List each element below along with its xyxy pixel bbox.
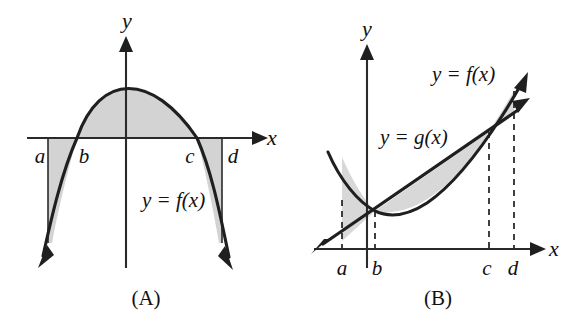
function-label-f: y = f(x) <box>140 188 205 212</box>
y-axis-label: y <box>120 8 132 33</box>
panel-b: x y a b c d y = f(x) y = g(x) (B) <box>292 0 583 329</box>
panel-b-plot: x y a b c d y = f(x) y = g(x) (B) <box>292 0 583 329</box>
x-label-d: d <box>228 144 239 168</box>
two-panel-figure: x y a b c d y = f(x) (A) <box>0 0 583 329</box>
x-label-b: b <box>79 144 90 168</box>
x-label-b: b <box>372 256 383 280</box>
x-label-d: d <box>508 256 519 280</box>
x-axis-label: x <box>266 125 277 150</box>
x-label-c: c <box>482 256 492 280</box>
curve-left-arrowhead <box>38 245 54 268</box>
x-label-a: a <box>35 144 46 168</box>
x-label-c: c <box>185 144 195 168</box>
panel-b-caption: (B) <box>424 286 452 310</box>
x-axis-label: x <box>548 236 559 261</box>
function-label-f: y = f(x) <box>430 62 495 86</box>
y-axis-label: y <box>360 16 372 41</box>
function-label-g: y = g(x) <box>378 125 448 149</box>
x-axis-arrowhead <box>530 242 546 256</box>
curve-right-arrowhead <box>218 246 233 270</box>
panel-a-caption: (A) <box>131 286 160 310</box>
panel-a-plot: x y a b c d y = f(x) (A) <box>0 0 292 329</box>
y-axis-arrowhead <box>119 36 133 52</box>
shaded-region-a-b <box>48 138 77 243</box>
panel-a: x y a b c d y = f(x) (A) <box>0 0 292 329</box>
y-axis-arrowhead <box>360 44 374 60</box>
x-label-a: a <box>337 256 348 280</box>
x-axis-arrowhead <box>252 131 268 145</box>
curve-g-left-arrowhead <box>311 239 329 254</box>
